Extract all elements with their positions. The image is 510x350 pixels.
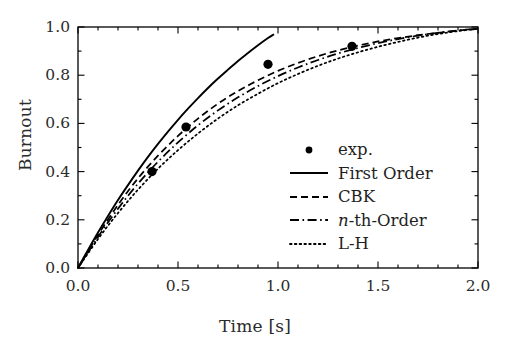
y-tick-label: 0.4 [30, 163, 70, 181]
legend-item: L-H [288, 232, 438, 256]
y-tick-label: 0.8 [30, 66, 70, 84]
legend-item: exp. [288, 138, 438, 162]
x-tick-label: 0.5 [166, 277, 191, 295]
y-tick-label: 0.6 [30, 114, 70, 132]
legend-label: CBK [330, 187, 375, 206]
x-axis-label: Time [s] [0, 316, 510, 336]
legend-item: CBK [288, 185, 438, 209]
legend-label: First Order [330, 164, 433, 183]
y-tick-label: 0.0 [30, 259, 70, 277]
legend-item: First Order [288, 162, 438, 186]
legend-item: n-th-Order [288, 209, 438, 233]
x-tick-label: 1.0 [266, 277, 291, 295]
y-tick-label: 1.0 [30, 18, 70, 36]
legend-key-marker-icon [288, 142, 330, 158]
legend-key-dotted-icon [288, 236, 330, 252]
x-tick-label: 1.5 [366, 277, 391, 295]
x-tick-label: 2.0 [466, 277, 491, 295]
legend-label: exp. [330, 140, 373, 159]
legend-key-dashdot-icon [288, 212, 330, 228]
y-axis-label: Burnout [15, 35, 35, 235]
legend-label: n-th-Order [330, 211, 427, 230]
legend-key-solid-icon [288, 165, 330, 181]
x-tick-label: 0.0 [66, 277, 91, 295]
chart-legend: exp.First OrderCBKn-th-OrderL-H [288, 138, 438, 256]
legend-label: L-H [330, 234, 369, 253]
burnout-vs-time-chart: Burnout Time [s] 0.00.51.01.52.0 0.00.20… [0, 0, 510, 350]
y-tick-label: 0.2 [30, 211, 70, 229]
legend-key-dashed-icon [288, 189, 330, 205]
